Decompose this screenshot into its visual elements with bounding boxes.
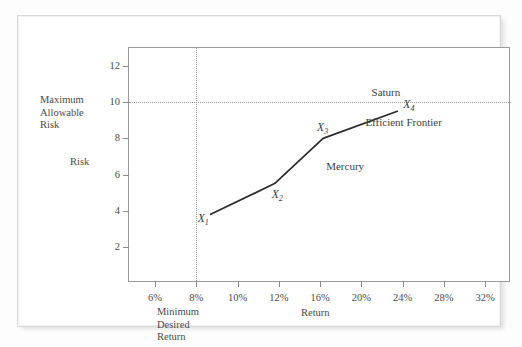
y-tick-label: 6: [115, 169, 120, 180]
x-tick-label: 24%: [393, 292, 412, 303]
maximum-allowable-risk-label: Maximum Allowable Risk: [40, 94, 84, 132]
efficient-frontier-line: [129, 48, 511, 283]
y-tick-label: 12: [110, 60, 121, 71]
x-tick-label: 12%: [269, 292, 288, 303]
annotation-saturn: Saturn: [372, 86, 401, 98]
data-point-label-x4: X4: [403, 98, 414, 113]
data-point-label-x3: X3: [317, 121, 328, 136]
y-tick-label: 8: [115, 133, 120, 144]
figure-frame: Maximum Allowable Risk Risk Minimum Desi…: [17, 15, 501, 327]
data-point-label-x2: X2: [272, 188, 283, 203]
data-point-label-x1: X1: [198, 212, 209, 227]
x-axis-title: Return: [301, 307, 330, 318]
y-tick-label: 10: [110, 96, 121, 107]
y-tick-label: 2: [115, 241, 120, 252]
y-axis-title: Risk: [70, 156, 89, 167]
x-tick-label: 10%: [228, 292, 247, 303]
x-tick-label: 6%: [148, 292, 162, 303]
annotation-efficient-frontier: Efficient Frontier: [365, 116, 441, 128]
y-tick-label: 4: [115, 205, 120, 216]
plot-area: 24681012 6%8%10%12%16%20%24%28%32% X1X2X…: [128, 47, 510, 282]
annotation-mercury: Mercury: [326, 160, 364, 172]
x-tick-label: 20%: [352, 292, 371, 303]
minimum-desired-return-label: Minimum Desired Return: [157, 306, 199, 344]
x-tick-label: 8%: [189, 292, 203, 303]
x-tick-label: 16%: [310, 292, 329, 303]
x-tick-label: 32%: [475, 292, 494, 303]
figure-page: Maximum Allowable Risk Risk Minimum Desi…: [0, 0, 522, 347]
x-tick-label: 28%: [434, 292, 453, 303]
